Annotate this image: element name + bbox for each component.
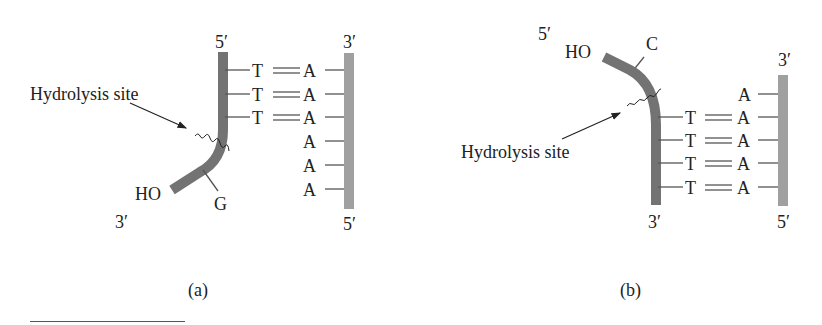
dna-hydrolysis-diagram: 5′ 3′ T A T A T A A A A: [0, 0, 822, 325]
panel-a-pair-0-left: T: [252, 61, 263, 81]
footnote-rule: [30, 321, 185, 322]
panel-a-hydrolysis-label: Hydrolysis site: [30, 84, 139, 104]
panel-b-pair-4-left: T: [685, 178, 696, 198]
panel-a-pair-5-right: A: [303, 180, 316, 200]
panel-b-right-strand-bottom-label: 5′: [777, 212, 790, 232]
panel-b-pair-2-right: A: [737, 131, 750, 151]
panel-b-hydrolysis-arrow: [562, 113, 620, 139]
panel-a-pair-3-right: A: [303, 132, 316, 152]
panel-a-pair-2-right: A: [303, 108, 316, 128]
panel-a-left-strand-top-label: 5′: [215, 32, 228, 52]
panel-a-pair-4-right: A: [303, 156, 316, 176]
panel-b-pair-0-right: A: [738, 85, 751, 105]
panel-b-pair-3-left: T: [685, 154, 696, 174]
panel-b-left-strand-top-label: 5′: [538, 24, 551, 44]
panel-b-hydrolysis-label: Hydrolysis site: [461, 142, 570, 162]
panel-a-right-strand-bottom-label: 5′: [343, 214, 356, 234]
panel-b-right-strand: [778, 75, 788, 206]
panel-b-base-pairs: [658, 94, 778, 190]
panel-b-right-strand-top-label: 3′: [778, 50, 791, 70]
panel-b-pair-1-left: T: [685, 108, 696, 128]
panel-a-right-strand: [344, 53, 354, 209]
panel-b-left-strand-bottom-label: 3′: [648, 212, 661, 232]
panel-b-end-group: HO: [565, 42, 591, 62]
panel-b-pair-4-right: A: [737, 178, 750, 198]
panel-a-right-strand-top-label: 3′: [343, 32, 356, 52]
panel-b-pair-3-right: A: [737, 154, 750, 174]
panel-a: 5′ 3′ T A T A T A A A A: [30, 32, 356, 301]
panel-b-left-strand: [604, 57, 656, 205]
panel-b-side-base: C: [646, 34, 658, 54]
panel-a-left-strand-bottom-label: 3′: [115, 212, 128, 232]
panel-a-pair-2-left: T: [252, 108, 263, 128]
panel-a-caption: (a): [188, 280, 208, 301]
panel-b: 5′ HO C 3′ A T A T A T A T: [461, 24, 791, 301]
panel-a-end-group: HO: [135, 184, 161, 204]
panel-a-pair-1-left: T: [252, 85, 263, 105]
panel-a-side-base: G: [214, 194, 227, 214]
panel-b-caption: (b): [620, 280, 641, 301]
panel-a-left-strand: [172, 52, 223, 190]
panel-b-pair-1-right: A: [737, 108, 750, 128]
panel-a-side-base-stem: [203, 170, 218, 191]
panel-b-pair-2-left: T: [685, 131, 696, 151]
panel-a-pair-1-right: A: [303, 85, 316, 105]
panel-a-hydrolysis-arrow: [130, 103, 186, 128]
panel-a-base-pairs: [225, 68, 344, 189]
panel-a-pair-0-right: A: [303, 61, 316, 81]
